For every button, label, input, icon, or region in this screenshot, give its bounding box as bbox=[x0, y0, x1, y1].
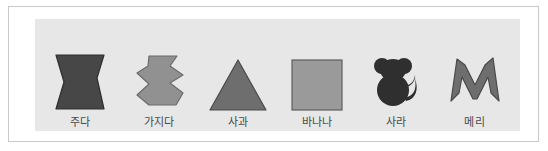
shape-card[interactable]: 사과 bbox=[201, 27, 275, 131]
triangle-shape-icon bbox=[203, 51, 273, 113]
shape-card[interactable]: 가지다 bbox=[122, 27, 196, 131]
square-shape-icon bbox=[282, 51, 352, 113]
zigzag-hexagon-shape-icon bbox=[124, 51, 194, 113]
shape-card-label: 가지다 bbox=[144, 116, 175, 131]
shape-card-label: 사과 bbox=[228, 116, 248, 131]
shape-card-label: 사라 bbox=[386, 116, 406, 131]
shape-card[interactable]: 메리 bbox=[438, 27, 512, 131]
worksheet-page: 주다 가지다 사과 bbox=[0, 0, 548, 151]
letter-m-shape-icon bbox=[440, 51, 510, 113]
hourglass-bowtie-shape-icon bbox=[45, 51, 115, 113]
shape-card[interactable]: 바나나 bbox=[280, 27, 354, 131]
shape-card-label: 주다 bbox=[70, 116, 90, 131]
shape-card[interactable]: 주다 bbox=[43, 27, 117, 131]
monkey-silhouette-icon bbox=[361, 51, 431, 113]
shape-card[interactable]: 사라 bbox=[359, 27, 433, 131]
shape-card-label: 메리 bbox=[464, 116, 484, 131]
shape-card-label: 바나나 bbox=[302, 116, 333, 131]
shape-card-row: 주다 가지다 사과 bbox=[35, 19, 520, 131]
